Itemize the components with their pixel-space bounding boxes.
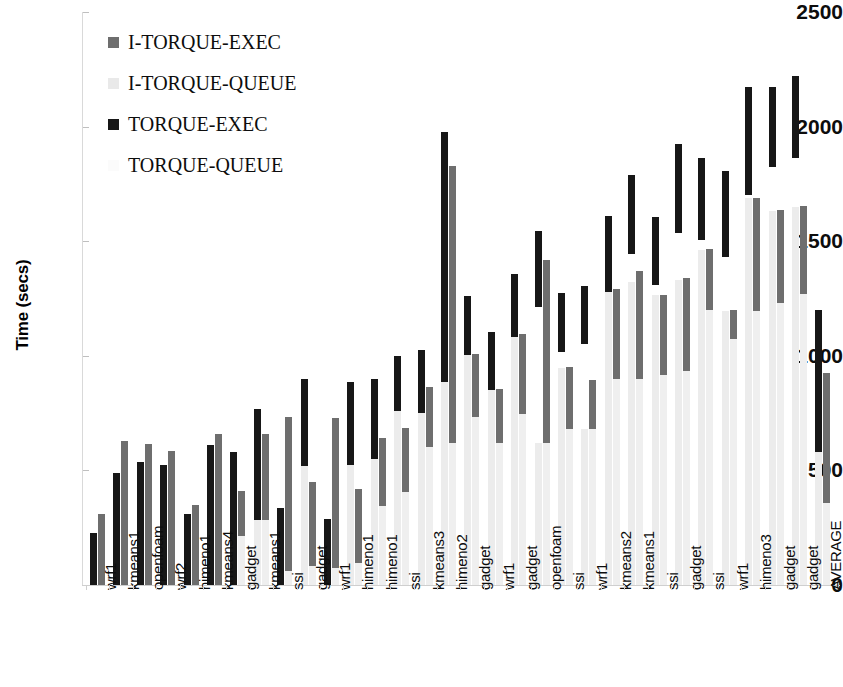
bar-group	[488, 12, 503, 585]
bar-itorque[interactable]	[777, 210, 784, 585]
x-tick-mark	[109, 585, 110, 590]
bar-group	[722, 12, 737, 585]
segment-itorque-exec	[660, 295, 667, 375]
bar-group	[418, 12, 433, 585]
x-axis-label: ssi	[711, 573, 726, 590]
legend-swatch-icon	[108, 78, 119, 89]
bar-torque[interactable]	[301, 379, 308, 585]
bar-torque[interactable]	[815, 310, 822, 585]
x-tick-mark	[484, 585, 485, 590]
bar-torque[interactable]	[605, 216, 612, 585]
x-axis-label: ssi	[290, 573, 305, 590]
segment-torque-exec	[464, 296, 471, 354]
bar-itorque[interactable]	[332, 418, 339, 585]
bar-torque[interactable]	[722, 171, 729, 585]
bar-torque[interactable]	[769, 87, 776, 586]
bar-torque[interactable]	[675, 144, 682, 585]
bar-itorque[interactable]	[683, 278, 690, 585]
segment-torque-exec	[652, 217, 659, 285]
x-axis-label: himeno3	[758, 535, 773, 590]
segment-torque-exec	[371, 379, 378, 459]
bar-itorque[interactable]	[449, 166, 456, 585]
x-axis-label: gadget	[524, 546, 539, 590]
bar-group	[347, 12, 362, 585]
x-axis-label: kmeans2	[618, 531, 633, 590]
bar-torque[interactable]	[535, 231, 542, 585]
bar-itorque[interactable]	[496, 389, 503, 585]
segment-itorque-exec	[543, 260, 550, 443]
x-tick-mark	[367, 585, 368, 590]
x-tick-mark	[671, 585, 672, 590]
bar-torque[interactable]	[347, 382, 354, 585]
x-axis-label: gadget	[314, 546, 329, 590]
x-axis-label: openfoam	[548, 526, 563, 590]
legend-item-1[interactable]: I-TORQUE-QUEUE	[108, 63, 297, 104]
segment-itorque-exec	[636, 271, 643, 379]
bar-itorque[interactable]	[800, 206, 807, 585]
bar-itorque[interactable]	[402, 428, 409, 585]
segment-torque-queue	[792, 207, 799, 585]
bar-group	[815, 12, 830, 585]
segment-torque-exec	[605, 216, 612, 292]
segment-itorque-exec	[706, 249, 713, 310]
chart-legend: I-TORQUE-EXECI-TORQUE-QUEUETORQUE-EXECTO…	[108, 22, 297, 186]
bar-torque[interactable]	[628, 175, 635, 585]
x-tick-mark	[554, 585, 555, 590]
bar-torque[interactable]	[90, 533, 97, 585]
segment-itorque-exec	[238, 491, 245, 536]
bar-group	[371, 12, 386, 585]
segment-itorque-exec	[426, 387, 433, 448]
legend-swatch-icon	[108, 160, 119, 171]
bar-itorque[interactable]	[589, 380, 596, 585]
x-tick-mark	[343, 585, 344, 590]
x-tick-mark	[320, 585, 321, 590]
bar-itorque[interactable]	[285, 417, 292, 585]
legend-label: TORQUE-QUEUE	[128, 154, 283, 177]
x-axis-label: wrf1	[594, 563, 609, 590]
x-tick-mark	[811, 585, 812, 590]
bar-torque[interactable]	[698, 158, 705, 585]
x-tick-mark	[531, 585, 532, 590]
segment-torque-exec	[535, 231, 542, 307]
x-tick-mark	[250, 585, 251, 590]
bar-itorque[interactable]	[566, 367, 573, 585]
segment-torque-exec	[90, 533, 97, 585]
bar-itorque[interactable]	[753, 198, 760, 585]
x-axis-label: wrf1	[103, 563, 118, 590]
segment-torque-exec	[347, 382, 354, 465]
bar-torque[interactable]	[511, 274, 518, 585]
bar-torque[interactable]	[441, 132, 448, 585]
legend-label: TORQUE-EXEC	[128, 113, 268, 136]
segment-itorque-queue	[777, 303, 784, 585]
legend-item-2[interactable]: TORQUE-EXEC	[108, 104, 297, 145]
segment-itorque-exec	[683, 278, 690, 371]
x-axis-label: himeno1	[197, 535, 212, 590]
legend-item-0[interactable]: I-TORQUE-EXEC	[108, 22, 297, 63]
segment-torque-queue	[769, 211, 776, 585]
bar-itorque[interactable]	[706, 249, 713, 585]
bar-group	[628, 12, 643, 585]
bar-torque[interactable]	[652, 217, 659, 585]
x-axis-label: ssi	[571, 573, 586, 590]
bar-group	[441, 12, 456, 585]
segment-itorque-exec	[730, 310, 737, 339]
bar-itorque[interactable]	[660, 295, 667, 585]
x-tick-mark	[156, 585, 157, 590]
segment-itorque-exec	[777, 210, 784, 303]
bar-torque[interactable]	[745, 87, 752, 586]
bar-group	[511, 12, 526, 585]
bar-itorque[interactable]	[730, 310, 737, 585]
x-axis-label: kmeans1	[267, 531, 282, 590]
legend-item-3[interactable]: TORQUE-QUEUE	[108, 145, 297, 186]
segment-torque-queue	[745, 198, 752, 585]
x-tick-mark	[460, 585, 461, 590]
segment-itorque-queue	[706, 310, 713, 585]
segment-torque-exec	[698, 158, 705, 241]
x-axis-label: gadget	[805, 546, 820, 590]
segment-itorque-queue	[800, 294, 807, 585]
bar-torque[interactable]	[581, 286, 588, 585]
bar-torque[interactable]	[418, 350, 425, 585]
segment-torque-queue	[698, 250, 705, 585]
x-tick-mark	[601, 585, 602, 590]
bar-torque[interactable]	[792, 76, 799, 585]
